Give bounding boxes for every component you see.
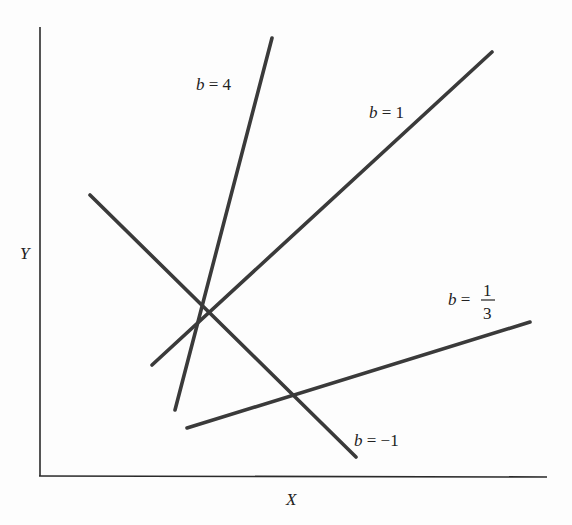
fraction-numerator: 1	[483, 281, 492, 300]
label-b-4: b = 4	[196, 75, 232, 94]
label-b-one-third-eq: =	[457, 290, 471, 309]
x-axis	[39, 476, 547, 477]
label-b-1-eq: = 1	[378, 103, 405, 122]
line-b-1	[152, 52, 492, 365]
diagram-svg: Y X b = 4 b = 1 b = 1 3 b = −1	[0, 0, 572, 525]
x-axis-label: X	[285, 490, 297, 509]
label-b-4-eq: = 4	[205, 75, 232, 94]
label-b-neg-1: b = −1	[354, 431, 399, 450]
line-b-one-third	[187, 322, 530, 428]
label-b-1: b = 1	[369, 103, 404, 122]
slope-diagram: Y X b = 4 b = 1 b = 1 3 b = −1	[0, 0, 572, 525]
label-b-one-third-var: b	[448, 290, 457, 309]
label-b-1-var: b	[369, 103, 378, 122]
label-b-neg-1-eq: = −1	[363, 431, 399, 450]
label-b-4-var: b	[196, 75, 205, 94]
label-b-one-third: b =	[448, 290, 470, 309]
fraction-denominator: 3	[483, 304, 492, 323]
label-b-neg-1-var: b	[354, 431, 363, 450]
y-axis-label: Y	[20, 244, 31, 263]
